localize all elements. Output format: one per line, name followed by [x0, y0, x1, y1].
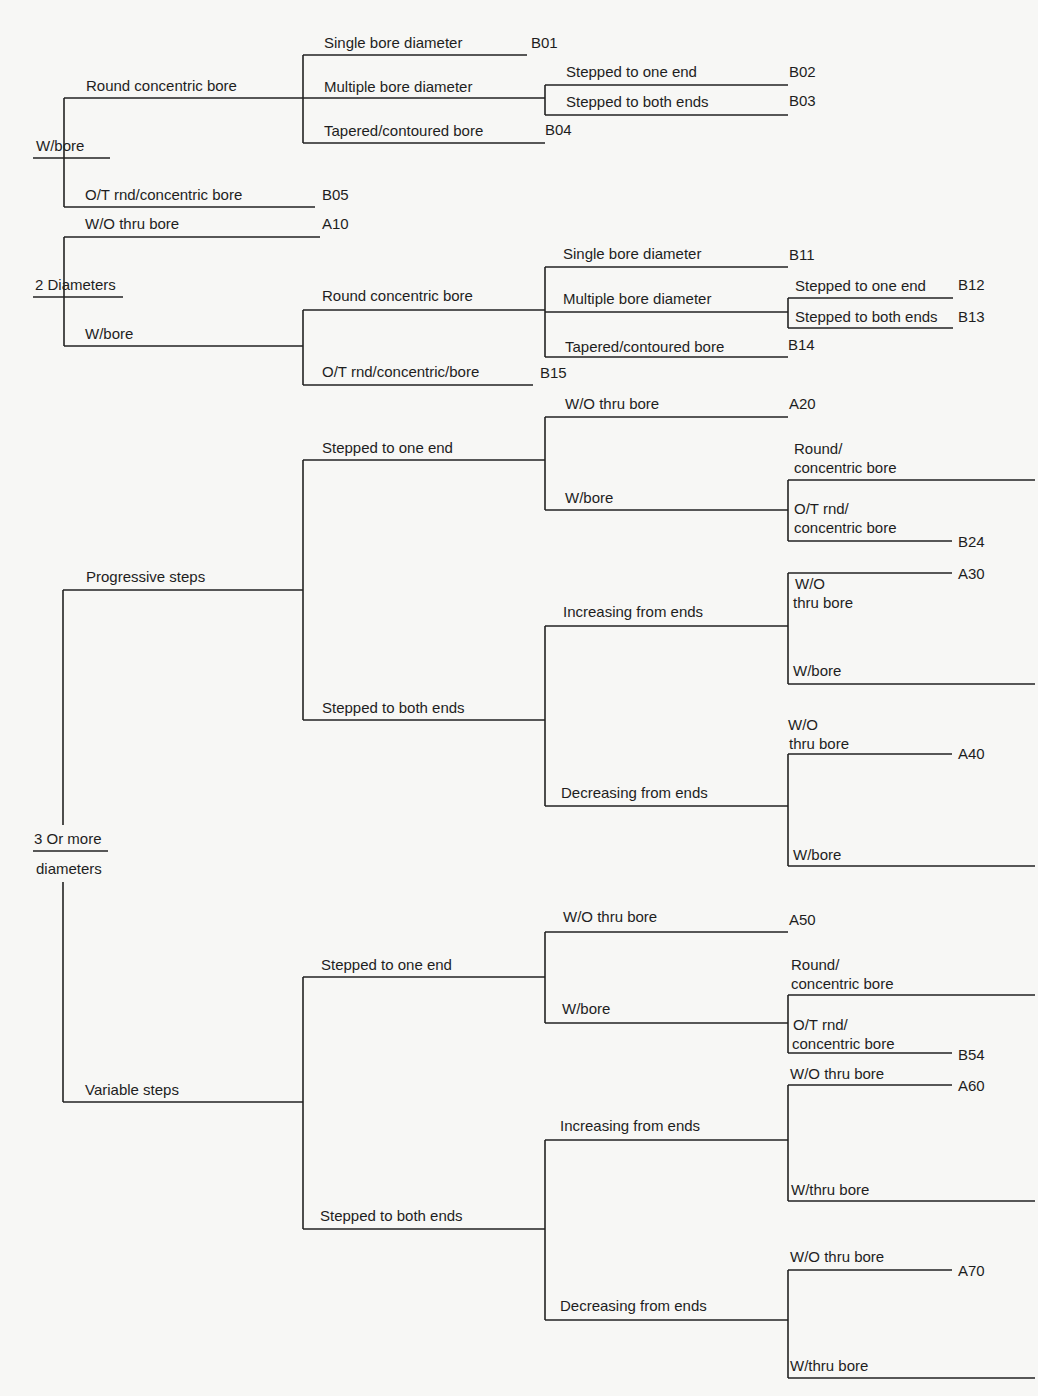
code-b13: B13	[958, 308, 985, 325]
code-a10: A10	[322, 215, 349, 232]
node-var-dec-wo-thru: W/O thru bore	[790, 1248, 884, 1265]
node-variable-steps: Variable steps	[85, 1081, 179, 1098]
node-round-concentric-bore: Round concentric bore	[86, 77, 237, 94]
code-b15: B15	[540, 364, 567, 381]
node-var-round-line1: Round/	[791, 956, 839, 973]
node-stepped-both-ends-2: Stepped to both ends	[795, 308, 938, 325]
node-prog-dec-wo-line1: W/O	[788, 716, 818, 733]
node-stepped-one-end: Stepped to one end	[566, 63, 697, 80]
node-stepped-both-ends: Stepped to both ends	[566, 93, 709, 110]
code-b12: B12	[958, 276, 985, 293]
node-multiple-bore-diameter: Multiple bore diameter	[324, 78, 472, 95]
node-prog-inc-wo-line2: thru bore	[793, 594, 853, 611]
code-b11: B11	[789, 246, 815, 263]
code-a50: A50	[789, 911, 816, 928]
code-a60: A60	[958, 1077, 985, 1094]
node-prog-round-line1: Round/	[794, 440, 842, 457]
node-var-stepped-both-ends: Stepped to both ends	[320, 1207, 463, 1224]
node-prog-stepped-one-end: Stepped to one end	[322, 439, 453, 456]
code-a70: A70	[958, 1262, 985, 1279]
node-prog-ot-line2: concentric bore	[794, 519, 897, 536]
node-tapered-contoured-bore-2: Tapered/contoured bore	[565, 338, 724, 355]
tree-connector-lines	[0, 0, 1038, 1396]
code-a40: A40	[958, 745, 985, 762]
node-round-concentric-bore-2: Round concentric bore	[322, 287, 473, 304]
code-a30: A30	[958, 565, 985, 582]
code-b04: B04	[545, 121, 572, 138]
node-prog-stepped-both-ends: Stepped to both ends	[322, 699, 465, 716]
node-tapered-contoured-bore: Tapered/contoured bore	[324, 122, 483, 139]
root-2-diameters: 2 Diameters	[35, 276, 116, 293]
node-var-ot-line2: concentric bore	[792, 1035, 895, 1052]
node-prog-inc-wo-line1: W/O	[795, 575, 825, 592]
node-var-round-line2: concentric bore	[791, 975, 894, 992]
node-prog-dec-wo-line2: thru bore	[789, 735, 849, 752]
node-var-increasing: Increasing from ends	[560, 1117, 700, 1134]
node-wbore: W/bore	[85, 325, 133, 342]
code-b03: B03	[789, 92, 816, 109]
code-a20: A20	[789, 395, 816, 412]
node-var-inc-wo-thru: W/O thru bore	[790, 1065, 884, 1082]
node-prog-wbore: W/bore	[565, 489, 613, 506]
node-ot-rnd-concentric-bore: O/T rnd/concentric bore	[85, 186, 242, 203]
code-b01: B01	[531, 34, 558, 51]
code-b02: B02	[789, 63, 816, 80]
root-diameters: diameters	[36, 860, 102, 877]
node-var-ot-line1: O/T rnd/	[793, 1016, 848, 1033]
node-stepped-one-end-2: Stepped to one end	[795, 277, 926, 294]
node-single-bore-diameter-2: Single bore diameter	[563, 245, 701, 262]
node-prog-wo-thru-bore: W/O thru bore	[565, 395, 659, 412]
code-b54: B54	[958, 1046, 985, 1063]
node-var-dec-wthru: W/thru bore	[790, 1357, 868, 1374]
node-var-stepped-one-end: Stepped to one end	[321, 956, 452, 973]
node-ot-rnd-concentric-bore-2: O/T rnd/concentric/bore	[322, 363, 479, 380]
node-single-bore-diameter: Single bore diameter	[324, 34, 462, 51]
node-prog-decreasing: Decreasing from ends	[561, 784, 708, 801]
node-var-inc-wthru: W/thru bore	[791, 1181, 869, 1198]
node-prog-ot-line1: O/T rnd/	[794, 500, 849, 517]
node-prog-round-line2: concentric bore	[794, 459, 897, 476]
node-wo-thru-bore: W/O thru bore	[85, 215, 179, 232]
node-prog-inc-wbore: W/bore	[793, 662, 841, 679]
root-3-or-more: 3 Or more	[34, 830, 102, 847]
code-b24: B24	[958, 533, 985, 550]
code-b14: B14	[788, 336, 815, 353]
code-b05: B05	[322, 186, 349, 203]
node-var-decreasing: Decreasing from ends	[560, 1297, 707, 1314]
node-var-wbore: W/bore	[562, 1000, 610, 1017]
node-prog-dec-wbore: W/bore	[793, 846, 841, 863]
node-prog-increasing: Increasing from ends	[563, 603, 703, 620]
root-wbore: W/bore	[36, 137, 84, 154]
node-multiple-bore-diameter-2: Multiple bore diameter	[563, 290, 711, 307]
node-var-wo-thru-bore: W/O thru bore	[563, 908, 657, 925]
node-progressive-steps: Progressive steps	[86, 568, 205, 585]
